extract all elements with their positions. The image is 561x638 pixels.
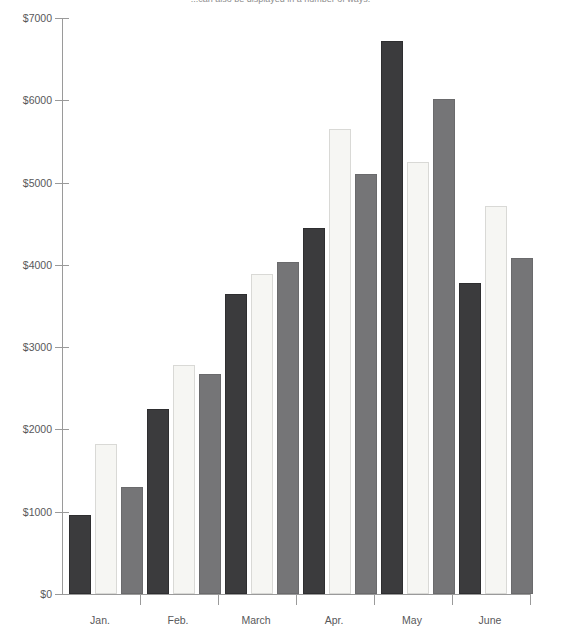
x-group-separator — [140, 594, 141, 605]
y-axis-label: $1000 — [6, 507, 52, 517]
bar-june-series-3-mid — [511, 258, 533, 594]
bar-jan-series-2-light — [95, 444, 117, 594]
y-axis-label: $7000 — [6, 13, 52, 23]
y-axis-label: $6000 — [6, 95, 52, 105]
y-axis-tick — [55, 594, 69, 595]
y-axis-label: $4000 — [6, 260, 52, 270]
y-axis-tick — [55, 183, 69, 184]
bar-apr-series-3-mid — [355, 174, 377, 594]
x-axis-label-apr: Apr. — [295, 614, 373, 626]
y-axis-tick — [55, 100, 69, 101]
x-axis-label-may: May — [373, 614, 451, 626]
bar-feb-series-2-light — [173, 365, 195, 594]
x-group-separator — [530, 594, 531, 605]
y-axis-tick — [55, 512, 69, 513]
y-axis-label: $0 — [6, 589, 52, 599]
y-axis-label: $3000 — [6, 342, 52, 352]
x-axis-label-march: March — [217, 614, 295, 626]
bar-may-series-3-mid — [433, 99, 455, 594]
y-axis-tick — [55, 429, 69, 430]
x-group-separator — [218, 594, 219, 605]
bar-march-series-2-light — [251, 274, 273, 594]
bar-jan-series-1-dark — [69, 515, 91, 594]
y-axis-tick — [55, 265, 69, 266]
x-group-separator — [452, 594, 453, 605]
bar-march-series-1-dark — [225, 294, 247, 594]
bar-chart-figure: ...can also be displayed in a number of … — [0, 0, 561, 638]
bar-feb-series-3-mid — [199, 374, 221, 594]
bar-apr-series-2-light — [329, 129, 351, 594]
bar-june-series-2-light — [485, 206, 507, 594]
y-axis-tick — [55, 18, 69, 19]
bar-may-series-2-light — [407, 162, 429, 594]
y-axis-label: $5000 — [6, 178, 52, 188]
bar-june-series-1-dark — [459, 283, 481, 594]
plot-area: $0$1000$2000$3000$4000$5000$6000$7000 Ja… — [62, 18, 530, 594]
x-group-separator — [296, 594, 297, 605]
x-axis-label-june: June — [451, 614, 529, 626]
figure-caption: ...can also be displayed in a number of … — [0, 0, 561, 4]
bar-may-series-1-dark — [381, 41, 403, 594]
x-axis-label-feb: Feb. — [139, 614, 217, 626]
bar-march-series-3-mid — [277, 262, 299, 594]
bar-feb-series-1-dark — [147, 409, 169, 594]
bar-jan-series-3-mid — [121, 487, 143, 594]
x-group-separator — [374, 594, 375, 605]
y-axis-tick — [55, 347, 69, 348]
x-axis-label-jan: Jan. — [61, 614, 139, 626]
y-axis-label: $2000 — [6, 424, 52, 434]
bar-apr-series-1-dark — [303, 228, 325, 594]
y-axis-line — [62, 18, 63, 594]
